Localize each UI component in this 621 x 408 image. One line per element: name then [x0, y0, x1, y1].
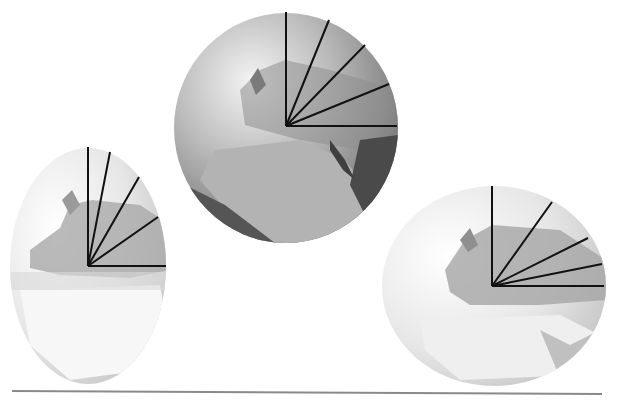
globe-projection-diagram [0, 0, 621, 408]
baseline-divider [12, 391, 602, 394]
